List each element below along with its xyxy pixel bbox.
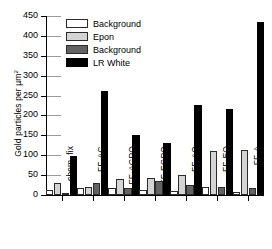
y-axis-tick: 300	[41, 76, 46, 77]
y-axis-tick: 250	[41, 96, 46, 97]
bar	[85, 187, 93, 195]
x-axis-tick	[62, 196, 63, 201]
y-axis-tick-label: 50	[12, 169, 38, 179]
y-axis-grid-stub	[47, 96, 61, 97]
bar	[257, 22, 265, 195]
bar	[210, 151, 218, 195]
y-axis-tick: 50	[41, 175, 46, 176]
y-axis-grid-stub	[47, 155, 61, 156]
y-axis-grid-stub	[47, 175, 61, 176]
bar	[147, 178, 155, 195]
bar	[46, 190, 54, 195]
bar	[155, 181, 163, 195]
bar	[226, 109, 234, 195]
bar	[132, 135, 140, 195]
legend-label: LR White	[93, 58, 130, 68]
legend-swatch	[66, 45, 88, 54]
y-axis-tick-label: 450	[12, 10, 38, 20]
legend-swatch	[66, 58, 88, 67]
bar	[93, 183, 101, 195]
y-axis-tick: 0	[41, 195, 46, 196]
x-axis-tick	[248, 196, 249, 201]
y-axis-tick-label: 0	[12, 189, 38, 199]
bar	[101, 91, 109, 195]
bar	[178, 175, 186, 195]
y-axis-tick: 150	[41, 135, 46, 136]
bar	[194, 105, 202, 195]
bar	[116, 179, 124, 195]
x-axis-tick	[217, 196, 218, 201]
y-axis-tick: 100	[41, 155, 46, 156]
bar-chart: Gold particles per µm2 05010015020025030…	[0, 0, 272, 249]
bar	[241, 150, 249, 195]
y-axis-tick-label: 250	[12, 90, 38, 100]
y-axis-grid-stub	[47, 36, 61, 37]
y-axis-grid-stub	[47, 76, 61, 77]
bar	[202, 187, 210, 195]
legend-label: Background	[93, 45, 141, 55]
legend-item: Epon	[66, 30, 141, 43]
bar	[124, 188, 132, 195]
x-axis-tick	[155, 196, 156, 201]
x-axis-tick	[93, 196, 94, 201]
bar	[218, 187, 226, 195]
legend-swatch	[66, 19, 88, 28]
y-axis-tick-label: 350	[12, 50, 38, 60]
bar	[54, 183, 62, 195]
bar	[77, 188, 85, 195]
y-axis-grid-stub	[47, 115, 61, 116]
y-axis-grid-stub	[47, 56, 61, 57]
y-axis-tick-label: 400	[12, 30, 38, 40]
y-axis-tick-label: 200	[12, 109, 38, 119]
y-axis-tick: 400	[41, 36, 46, 37]
bar	[186, 185, 194, 195]
x-axis-tick	[124, 196, 125, 201]
legend-swatch	[66, 32, 88, 41]
y-axis-line	[46, 16, 47, 196]
legend-label: Background	[93, 19, 141, 29]
y-axis-grid-stub	[47, 16, 61, 17]
bar	[233, 192, 241, 195]
bar	[62, 193, 70, 195]
legend: BackgroundEponBackgroundLR White	[66, 17, 141, 69]
y-axis-tick-label: 150	[12, 129, 38, 139]
y-axis-grid-stub	[47, 135, 61, 136]
y-axis-tick: 200	[41, 115, 46, 116]
legend-item: Background	[66, 43, 141, 56]
bar	[249, 188, 257, 195]
legend-label: Epon	[93, 32, 114, 42]
bar	[108, 188, 116, 195]
legend-item: LR White	[66, 56, 141, 69]
bar	[139, 190, 147, 195]
y-axis-tick-label: 100	[12, 149, 38, 159]
y-axis-tick: 450	[41, 16, 46, 17]
x-axis-tick	[186, 196, 187, 201]
bar	[170, 191, 178, 195]
bar	[163, 143, 171, 195]
y-axis-tick: 350	[41, 56, 46, 57]
y-axis-tick-label: 300	[12, 70, 38, 80]
legend-item: Background	[66, 17, 141, 30]
